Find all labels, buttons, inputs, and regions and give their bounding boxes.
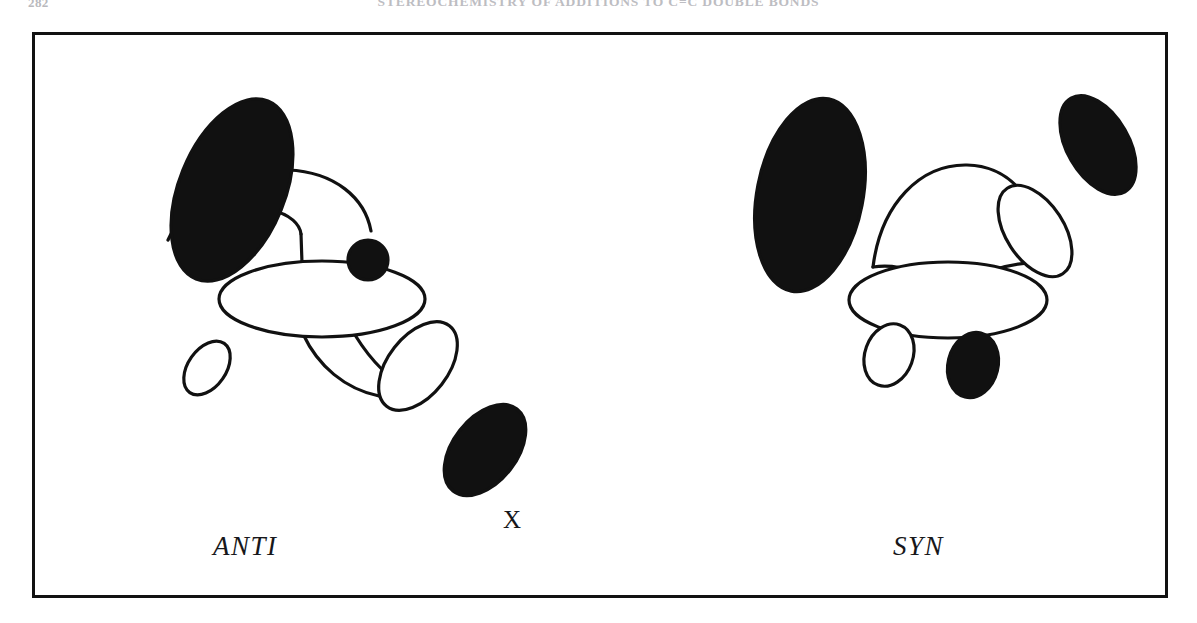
anti-lower-back-arc: [303, 334, 379, 396]
caption-anti: ANTI: [213, 531, 278, 562]
syn-central-ring-ellipse: [849, 262, 1047, 338]
structure-syn: [739, 83, 1152, 403]
syn-upper-left-filled-lobe: [739, 89, 880, 302]
orbital-diagram-canvas: [35, 35, 1171, 601]
figure-frame: X ANTI SYN: [32, 32, 1168, 598]
page-running-head: 282 STEREOCHEMISTRY OF ADDITIONS TO C=C …: [0, 0, 1197, 11]
anti-small-filled-circle: [348, 240, 388, 280]
anti-ring-tick: [301, 234, 302, 263]
anti-lower-filled-lobe: [428, 389, 542, 510]
structure-anti: [147, 81, 542, 511]
running-head-title: STEREOCHEMISTRY OF ADDITIONS TO C=C DOUB…: [0, 0, 1197, 10]
caption-syn: SYN: [893, 531, 944, 562]
syn-upper-right-filled-lobe: [1044, 83, 1152, 208]
anti-leaving-group-label-x: X: [503, 506, 521, 534]
anti-free-open-lobe: [174, 333, 240, 404]
anti-central-ring-ellipse: [219, 261, 425, 337]
